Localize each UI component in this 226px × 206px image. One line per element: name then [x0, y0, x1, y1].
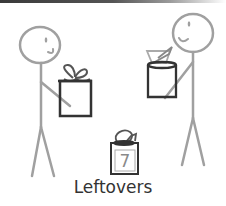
right-smile: [179, 38, 188, 41]
bow-loop-left: [64, 65, 75, 78]
right-leg-1: [182, 118, 193, 165]
diagram-canvas: 7 Leftovers: [0, 0, 226, 206]
left-stick-figure: [20, 27, 70, 176]
right-box-rim: [148, 62, 176, 68]
left-box-body: [60, 81, 91, 116]
left-leg-1: [32, 127, 41, 176]
left-head: [20, 27, 60, 63]
leftovers-box: 7: [111, 131, 138, 174]
right-head: [173, 14, 213, 52]
left-eye: [45, 37, 48, 43]
left-smile: [48, 49, 53, 53]
illustration: 7: [0, 0, 226, 206]
bow-loop-right: [75, 69, 87, 78]
left-leg-2: [41, 127, 54, 176]
leftovers-label: Leftovers: [0, 177, 226, 197]
right-leg-2: [193, 118, 204, 165]
left-gift-box: [58, 65, 92, 116]
leftovers-count: 7: [120, 151, 131, 171]
right-box-body: [148, 65, 176, 97]
right-stick-figure: [165, 14, 213, 165]
right-eye: [188, 21, 191, 27]
left-arm: [41, 82, 70, 106]
